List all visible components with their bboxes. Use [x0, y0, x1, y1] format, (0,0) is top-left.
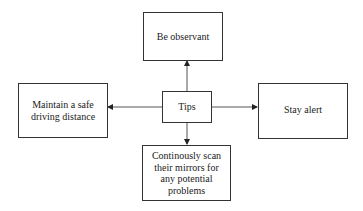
node-stay-alert: Stay alert — [258, 83, 348, 139]
node-label: Continously scan their mirrors for any p… — [148, 150, 226, 196]
node-scan-mirrors: Continously scan their mirrors for any p… — [142, 145, 231, 201]
node-label: Stay alert — [284, 104, 322, 116]
node-label: Tips — [178, 101, 195, 113]
node-label: Maintain a safe driving distance — [27, 99, 99, 122]
node-maintain-safe-distance: Maintain a safe driving distance — [18, 83, 108, 138]
node-tips-center: Tips — [162, 91, 212, 123]
node-be-observant: Be observant — [143, 12, 223, 61]
node-label: Be observant — [157, 31, 210, 43]
